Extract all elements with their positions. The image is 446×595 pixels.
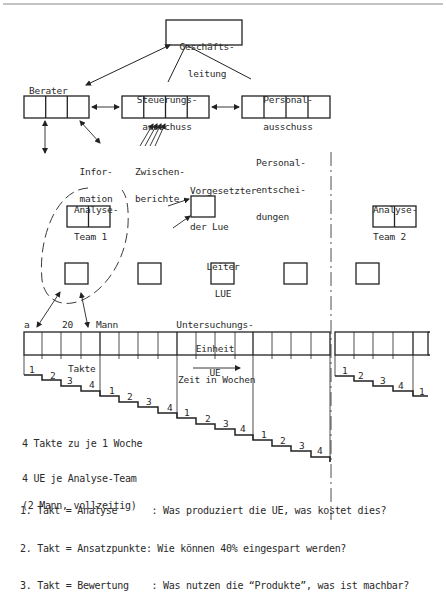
vorgesetzter-label: Vorgesetzter (190, 186, 256, 195)
ue-bar-second (335, 332, 428, 355)
step-number: 2 (50, 371, 56, 380)
leiter-lue-label: Leiter LUE (200, 244, 246, 307)
step-number: 3 (223, 419, 229, 428)
step-number: 4 (167, 403, 173, 412)
step-number: 4 (240, 424, 246, 433)
leiter-box-4 (284, 263, 307, 284)
legend-item-3: 3. Takt = Bewertung : Was nutzen die “Pr… (20, 580, 409, 593)
untersuchungseinheit-label: Untersuchungs- Einheit UE (170, 305, 260, 385)
step-number: 3 (380, 376, 386, 385)
step-number: 1 (342, 366, 348, 375)
step-number: 3 (67, 376, 73, 385)
step-number: 1 (261, 430, 267, 439)
legend-takte: 4 Takte zu je 1 Woche (22, 438, 142, 449)
step-number: 3 (146, 397, 152, 406)
step-number: 4 (89, 380, 95, 389)
step-number: 1 (109, 386, 115, 395)
zwischenberichte-label: Zwischen- berichte (135, 149, 185, 212)
mann-label: Mann (96, 320, 118, 329)
leiter-box-2 (138, 263, 161, 284)
step-number: 2 (205, 414, 211, 423)
legend-item-2: 2. Takt = Ansatzpunkte: Wie können 40% e… (20, 543, 409, 556)
step-number: 1 (419, 387, 425, 396)
step-number: 4 (398, 381, 404, 390)
analyse-team-2-label: Analyse- Team 2 (373, 187, 417, 250)
count-20-label: 20 (62, 320, 73, 329)
leiter-box-5 (356, 263, 379, 284)
legend-list: 1. Takt = Analyse : Was produziert die U… (20, 480, 409, 595)
step-number: 1 (184, 408, 190, 417)
der-lue-label: der Lue (190, 222, 229, 231)
zeit-in-wochen-label: Zeit in Wochen (178, 375, 255, 384)
steuerungsausschuss-label: Steuerungs- ausschuss (126, 77, 208, 140)
legend-item-1: 1. Takt = Analyse : Was produziert die U… (20, 505, 409, 518)
step-number: 2 (127, 392, 133, 401)
berater-label: Berater (29, 86, 68, 95)
leiter-box-1 (65, 263, 88, 284)
vorgesetzter-box (191, 196, 215, 217)
a-label: a (24, 320, 30, 329)
step-number: 4 (317, 446, 323, 455)
takte-label: Takte (68, 364, 96, 373)
step-number: 2 (358, 371, 364, 380)
berater-box (24, 96, 89, 118)
personalentscheidungen-label: Personal- entschei- dungen (256, 140, 306, 230)
step-number: 3 (299, 441, 305, 450)
analyse-team-1-label: Analyse- Team 1 (74, 187, 118, 250)
step-number: 2 (280, 436, 286, 445)
step-number: 1 (29, 365, 35, 374)
personalausschuss-label: Personal- ausschuss (258, 77, 318, 140)
